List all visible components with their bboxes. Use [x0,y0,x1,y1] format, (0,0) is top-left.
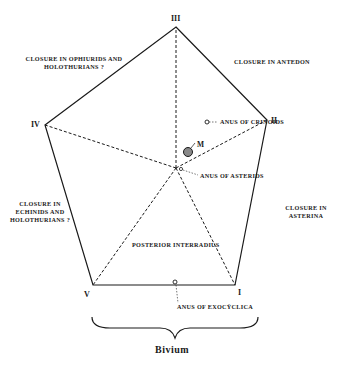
exocyclica-anus-icon [173,280,177,284]
pentagon-diagram: III II I V IV Closure in Ophiurids and H… [0,0,339,366]
label-posterior-interradius: Posterior interradius [132,241,220,249]
asterid-anus-icon [179,167,182,170]
bivium-brace [92,317,258,338]
vertex-label-v: V [84,290,90,299]
vertex-label-iii: III [171,14,180,23]
label-anus-asterids: Anus of Asterids [200,172,264,180]
label-closure-asterina: Closure in Asterina [281,204,331,220]
vertex-label-iv: IV [31,120,40,129]
label-anus-exocyclica: Anus of Exocÿclica [177,303,253,311]
crinoid-anus-icon [205,120,209,124]
mouth-icon [184,148,193,157]
label-mouth: M [197,141,204,149]
label-anus-crinoids: Anus of Crinoids [220,118,284,126]
label-closure-ophiurids: Closure in Ophiurids and Holothurians ? [22,55,126,71]
label-closure-antedon: Closure in Antedon [234,58,310,66]
vertex-label-i: I [238,288,241,297]
label-closure-echinids: Closure in Echinids and Holothurians ? [10,200,70,224]
label-bivium: Bivium [155,344,189,355]
